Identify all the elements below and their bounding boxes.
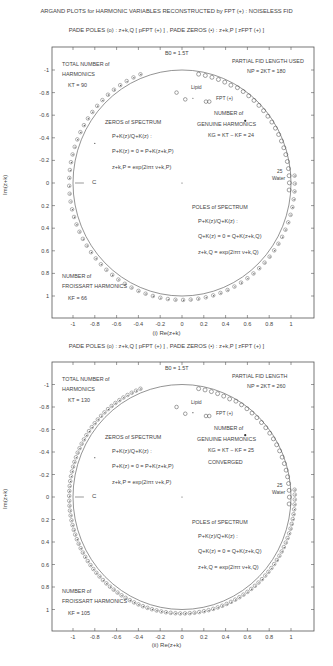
froissart-zero bbox=[90, 565, 91, 566]
froissart-zero bbox=[189, 613, 190, 614]
froissart-zero bbox=[198, 298, 199, 299]
froissart-zero bbox=[136, 390, 137, 391]
spurious-zero bbox=[94, 457, 95, 458]
froissart-zero bbox=[213, 608, 214, 609]
x-tick-label: -0.8 bbox=[90, 321, 100, 327]
froissart-zero bbox=[89, 431, 90, 432]
froissart-zero bbox=[259, 268, 260, 269]
partial-fid-label: PARTIAL FID LENGTH USED bbox=[232, 58, 304, 64]
froissart-zero bbox=[74, 217, 75, 218]
froissart-zero bbox=[294, 494, 295, 495]
froissart-zero bbox=[69, 486, 70, 487]
lipid-pole bbox=[183, 98, 187, 102]
froissart-zero bbox=[231, 601, 232, 602]
froissart-zero bbox=[294, 504, 295, 505]
froissart-zero bbox=[255, 585, 256, 586]
froissart-zero bbox=[185, 613, 186, 614]
genuine-pole bbox=[203, 388, 207, 392]
zeros-eq2: P+K(z) = 0 = P+K(z+k,P) bbox=[112, 463, 174, 469]
lipid-zero bbox=[192, 98, 193, 99]
froissart-zero bbox=[70, 170, 71, 171]
genuine-pole bbox=[245, 407, 249, 411]
c-label: C bbox=[92, 493, 96, 499]
water-label: Water bbox=[272, 175, 285, 181]
y-tick-label: -0.4 bbox=[39, 135, 49, 141]
froissart-zero bbox=[295, 183, 296, 184]
y-tick-label: 0.4 bbox=[41, 539, 49, 545]
poles-eq1: P+K(z)/Q+K(z) : bbox=[198, 218, 238, 224]
zeros-title: ZEROS of SPECTRUM bbox=[105, 434, 161, 440]
y-tick-label: 0 bbox=[46, 180, 49, 186]
froissart-zero bbox=[130, 600, 131, 601]
froissart-zero bbox=[91, 252, 92, 253]
froissart-zero bbox=[131, 392, 132, 393]
froissart-zero bbox=[113, 589, 114, 590]
zeros-eq3: z+k,P = exp(2iπτ ν+k,P) bbox=[112, 164, 171, 170]
x-tick-label: -0.8 bbox=[90, 634, 100, 640]
water-num: 25 bbox=[277, 169, 282, 174]
zeros-eq2: P+K(z) = 0 = P+K(z+k,P) bbox=[112, 148, 174, 154]
froissart-zero bbox=[147, 607, 148, 608]
froissart-zero bbox=[75, 534, 76, 535]
froissart-zero bbox=[72, 209, 73, 210]
froissart-zero bbox=[76, 457, 77, 458]
froissart-zero bbox=[226, 604, 227, 605]
froissart-zero bbox=[282, 236, 283, 237]
genuine-pole bbox=[278, 449, 282, 453]
genuine-pole bbox=[268, 431, 272, 435]
x-tick-label: 0.4 bbox=[222, 634, 230, 640]
froissart-zero bbox=[285, 229, 286, 230]
froissart-zero bbox=[80, 132, 81, 133]
froissart-zero bbox=[258, 582, 259, 583]
y-tick-label: -0.8 bbox=[39, 404, 49, 410]
genuine-label-2: GENUINE HARMONICS bbox=[197, 121, 256, 127]
froissart-zero bbox=[123, 397, 124, 398]
genuine-pole bbox=[222, 394, 226, 398]
froissart-zero bbox=[73, 529, 74, 530]
genuine-pole bbox=[252, 98, 256, 102]
froissart-zero bbox=[92, 112, 93, 113]
genuine-pole bbox=[209, 390, 213, 394]
x-axis-label: (i) Re(z+k) bbox=[0, 330, 333, 336]
froissart-zero bbox=[91, 427, 92, 428]
froissart-zero bbox=[80, 548, 81, 549]
froissart-zero bbox=[168, 299, 169, 300]
lipid-label: Lipid bbox=[191, 84, 202, 90]
froissart-zero bbox=[264, 262, 265, 263]
genuine-pole bbox=[264, 426, 268, 430]
genuine-pole bbox=[241, 90, 245, 94]
froissart-zero bbox=[277, 560, 278, 561]
froissart-zero bbox=[99, 576, 100, 577]
x-tick-label: 0.4 bbox=[222, 321, 230, 327]
froissart-zero bbox=[83, 238, 84, 239]
froissart-zero bbox=[153, 296, 154, 297]
y-tick-label: 0.8 bbox=[41, 584, 49, 590]
genuine-pole bbox=[250, 411, 254, 415]
froissart-zero bbox=[220, 293, 221, 294]
froissart-value: KF = 66 bbox=[68, 295, 87, 301]
y-tick-label: -1 bbox=[44, 67, 49, 73]
froissart-zero bbox=[156, 610, 157, 611]
froissart-zero bbox=[70, 201, 71, 202]
x-tick-label: 0.6 bbox=[244, 321, 252, 327]
froissart-zero bbox=[286, 542, 287, 543]
y-tick-label: 1 bbox=[46, 293, 49, 299]
genuine-pole bbox=[235, 86, 239, 90]
genuine-pole bbox=[216, 392, 220, 396]
froissart-zero bbox=[108, 94, 109, 95]
x-tick-label: 1 bbox=[289, 634, 292, 640]
y-tick-label: -0.2 bbox=[39, 472, 49, 478]
froissart-zero bbox=[292, 207, 293, 208]
b0-label: B0 = 1.5T bbox=[165, 365, 189, 371]
froissart-zero bbox=[294, 509, 295, 510]
genuine-pole bbox=[228, 397, 232, 401]
froissart-zero bbox=[243, 594, 244, 595]
y-tick-label: 0.6 bbox=[41, 562, 49, 568]
froissart-zero bbox=[190, 299, 191, 300]
froissart-zero bbox=[269, 256, 270, 257]
froissart-label-2: FROISSART HARMONICS bbox=[62, 598, 127, 604]
genuine-value: KG = KT − KF = 25 bbox=[208, 447, 254, 453]
froissart-zero bbox=[110, 586, 111, 587]
froissart-zero bbox=[279, 555, 280, 556]
lipid-pole bbox=[175, 405, 179, 409]
